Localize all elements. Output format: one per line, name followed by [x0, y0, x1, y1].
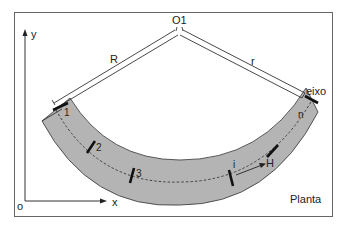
- outer-radius-label-R: R: [110, 53, 118, 65]
- section-label-3: 3: [136, 168, 142, 179]
- x-axis-arrow-icon: [100, 199, 107, 204]
- center-O1-marker: [176, 27, 183, 31]
- inner-radius-label-r: r: [251, 55, 255, 67]
- curved-channel-plan-diagram: y x o O1 R r eixo 1 2 3 i n H Planta: [0, 0, 346, 225]
- section-label-1: 1: [64, 107, 70, 118]
- x-axis-label: x: [112, 196, 118, 208]
- y-axis-arrow-icon: [23, 29, 28, 36]
- axis-label-eixo: eixo: [306, 85, 326, 97]
- origin-label: o: [17, 200, 23, 212]
- spacing-label-H: H: [266, 157, 274, 169]
- section-label-2: 2: [96, 142, 102, 153]
- section-label-n: n: [298, 109, 304, 120]
- radius-r-line: [180, 30, 305, 98]
- y-axis-label: y: [31, 28, 37, 40]
- section-label-i: i: [233, 159, 235, 170]
- view-label-planta: Planta: [290, 193, 322, 205]
- center-label-O1: O1: [172, 14, 187, 26]
